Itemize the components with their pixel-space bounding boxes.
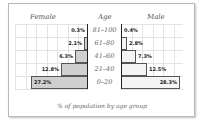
age-header: Age [98, 13, 112, 21]
chart-caption: % of population by age group [0, 102, 204, 109]
male-value: 7.3% [138, 50, 152, 63]
male-value: 0.4% [124, 24, 138, 37]
gridline [15, 24, 16, 89]
gridline [26, 24, 27, 89]
female-value: 12.8% [42, 63, 59, 76]
age-group-label: 81–100 [88, 24, 121, 37]
male-bar [121, 50, 136, 63]
female-header: Female [30, 13, 56, 21]
female-bar [61, 63, 88, 76]
age-group-label: 41–60 [88, 50, 121, 63]
age-group-label: 0–20 [88, 76, 121, 89]
male-header: Male [147, 13, 165, 21]
age-group-label: 61–80 [88, 37, 121, 50]
gridline [121, 89, 183, 90]
female-value: 6.3% [59, 50, 73, 63]
female-axis [87, 24, 88, 89]
male-value: 2.8% [129, 37, 143, 50]
male-axis [121, 24, 122, 89]
male-bar [121, 63, 147, 76]
male-value: 28.3% [160, 76, 177, 89]
female-value: 2.1% [68, 37, 82, 50]
age-group-label: 21–40 [88, 63, 121, 76]
female-value: 27.2% [34, 76, 51, 89]
gridline [15, 89, 88, 90]
female-value: 0.3% [71, 24, 85, 37]
male-value: 12.5% [149, 63, 166, 76]
